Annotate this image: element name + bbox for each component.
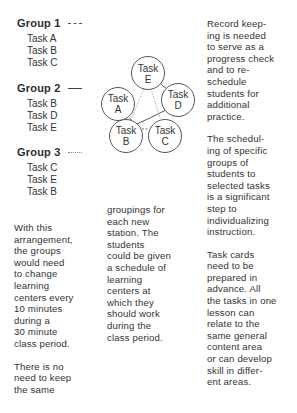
task-item: Task C — [17, 57, 82, 69]
svg-text:A: A — [115, 104, 122, 115]
node-task-d: Task D — [162, 84, 195, 117]
dotted-line-legend-icon — [68, 152, 82, 153]
paragraph-task-cards: Task cards need to be prepared in advanc… — [207, 249, 297, 388]
paragraph-groupings-start: There is no need to keep the same — [14, 361, 96, 396]
svg-text:C: C — [161, 136, 168, 147]
group-2-title: Group 2 — [17, 82, 82, 95]
svg-text:B: B — [123, 136, 130, 147]
node-task-b: Task B — [110, 120, 143, 153]
task-item: Task B — [17, 98, 82, 110]
dashed-line-legend-icon — [68, 23, 82, 24]
group-2-label: Group 2 — [17, 82, 61, 94]
group-3-block: Group 3 Task C Task E Task B — [17, 146, 82, 198]
svg-text:D: D — [174, 100, 181, 111]
group-3-task-list: Task C Task E Task B — [17, 162, 82, 198]
middle-column-text: groupings for each new station. The stud… — [107, 204, 197, 354]
group-3-title: Group 3 — [17, 146, 82, 159]
group-1-block: Group 1 Task A Task B Task C — [17, 17, 82, 69]
paragraph-arrangement: With this arrangement, the groups would … — [14, 222, 96, 350]
task-item: Task C — [17, 162, 82, 174]
group-3-label: Group 3 — [17, 146, 61, 158]
task-item: Task E — [17, 122, 82, 134]
edge-e-c — [151, 89, 160, 118]
svg-text:Task: Task — [168, 89, 190, 100]
right-column-text: Record keep- ing is needed to serve as a… — [207, 18, 297, 399]
task-item: Task A — [17, 33, 82, 45]
task-item: Task D — [17, 110, 82, 122]
group-1-title: Group 1 — [17, 17, 82, 30]
group-2-task-list: Task B Task D Task E — [17, 98, 82, 134]
paragraph-groupings-continued: groupings for each new station. The stud… — [107, 204, 197, 343]
left-column-text: With this arrangement, the groups would … — [14, 222, 96, 406]
node-task-e: Task E — [132, 57, 165, 90]
paragraph-record-keeping: Record keep- ing is needed to serve as a… — [207, 18, 297, 122]
svg-text:Task: Task — [108, 93, 130, 104]
task-item: Task B — [17, 186, 82, 198]
group-2-block: Group 2 Task B Task D Task E — [17, 82, 82, 134]
group-1-label: Group 1 — [17, 17, 61, 29]
node-task-a: Task A — [102, 88, 135, 121]
svg-text:E: E — [145, 74, 152, 85]
task-item: Task E — [17, 174, 82, 186]
task-diagram: Task E Task A Task D Task B Task C — [95, 50, 215, 170]
node-task-c: Task C — [149, 120, 182, 153]
svg-text:Task: Task — [116, 125, 138, 136]
svg-text:Task: Task — [138, 63, 160, 74]
paragraph-scheduling: The schedul- ing of specific groups of s… — [207, 133, 297, 237]
solid-line-legend-icon — [68, 88, 82, 89]
group-1-task-list: Task A Task B Task C — [17, 33, 82, 69]
svg-text:Task: Task — [155, 125, 177, 136]
task-item: Task B — [17, 45, 82, 57]
